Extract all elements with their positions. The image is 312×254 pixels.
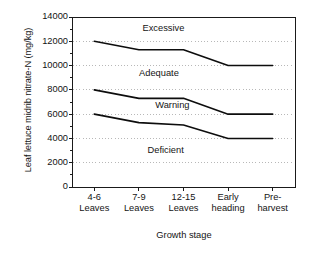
chart-figure: Leaf lettuce midrib nitrate-N (mg/kg) 14… xyxy=(0,0,312,254)
x-tick-label-line1: 4-6 xyxy=(88,192,101,202)
x-tick-label-line1: Early xyxy=(218,192,239,202)
x-tick-label-line1: 12-15 xyxy=(172,192,196,202)
x-tick-label-line1: 7-9 xyxy=(132,192,145,202)
x-tick-label-line2: harvest xyxy=(244,203,302,214)
x-axis-tick-labels: 4-6Leaves7-9Leaves12-15LeavesEarlyheadin… xyxy=(0,0,312,254)
x-tick-label-line1: Pre- xyxy=(264,192,282,202)
x-tick-label: Pre-harvest xyxy=(244,192,302,214)
x-axis-title: Growth stage xyxy=(72,230,296,240)
